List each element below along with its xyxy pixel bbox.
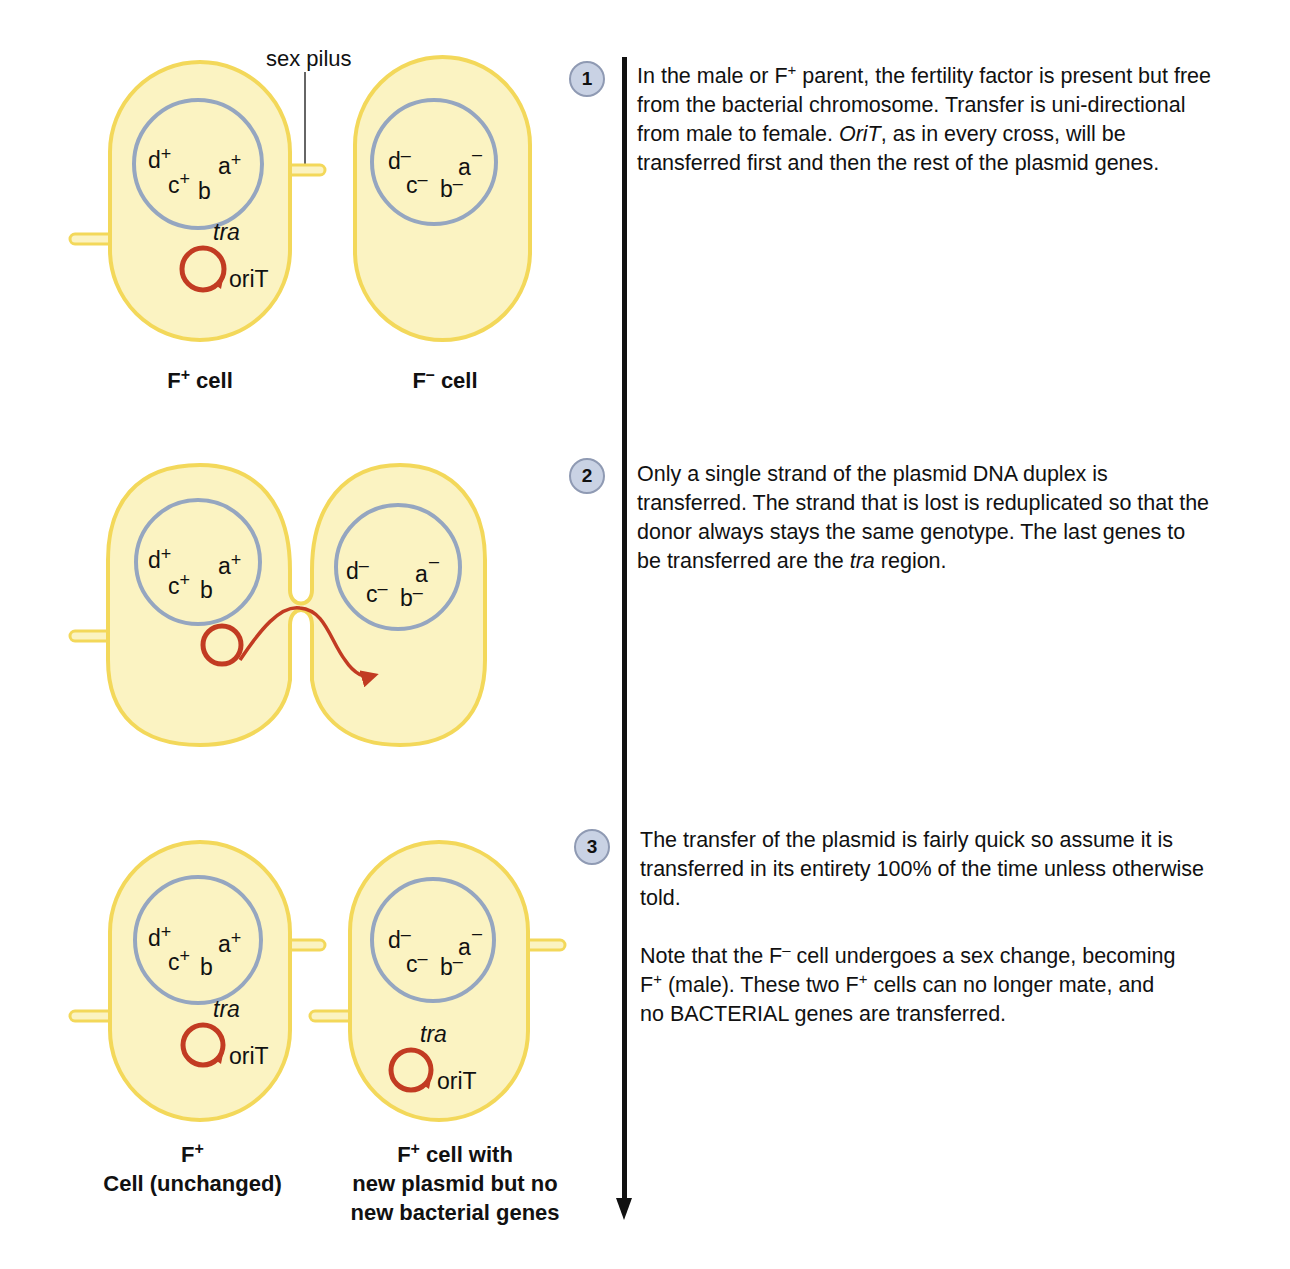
step-2-text: Only a single strand of the plasmid DNA … (637, 460, 1212, 576)
label-line-1: F+ (85, 1134, 300, 1169)
svg-text:–: – (472, 923, 482, 943)
f-plus-cell-label: F+ cell (140, 360, 260, 395)
mating-pair: d+ a+ c+ b d– a – c– b– (70, 465, 485, 745)
f-minus-cell-1: d– a – c– b– (355, 57, 530, 340)
step-1-text: In the male or F+ parent, the fertility … (637, 62, 1227, 178)
label-line-1: F+ cell with (330, 1134, 580, 1169)
step-1-badge: 1 (569, 61, 605, 97)
svg-text:–: – (429, 551, 439, 571)
svg-text:oriT: oriT (229, 266, 269, 292)
svg-text:tra: tra (213, 219, 240, 245)
timeline-arrowhead-icon (616, 1198, 632, 1220)
svg-text:oriT: oriT (229, 1043, 269, 1069)
f-minus-cell-label: F– cell (385, 360, 505, 395)
svg-text:b: b (200, 577, 213, 603)
svg-text:oriT: oriT (437, 1068, 477, 1094)
f-plus-cell-new: d– a – c– b– tra oriT (310, 842, 565, 1120)
label-line-2: Cell (unchanged) (85, 1169, 300, 1198)
f-plus-new-plasmid-label: F+ cell with new plasmid but no new bact… (330, 1134, 580, 1227)
conjugation-diagram: d+ a+ c+ b tra oriT d– a – c– b– d+ a+ c… (0, 0, 1290, 1269)
svg-text:–: – (472, 144, 482, 164)
step-3-paragraph-1: The transfer of the plasmid is fairly qu… (640, 826, 1240, 913)
step-3-text: The transfer of the plasmid is fairly qu… (640, 826, 1240, 1058)
svg-text:b: b (198, 178, 211, 204)
svg-text:tra: tra (420, 1021, 447, 1047)
label-line-2: new plasmid but no (330, 1169, 580, 1198)
step-3-paragraph-2: Note that the F– cell undergoes a sex ch… (640, 942, 1180, 1029)
svg-text:tra: tra (213, 996, 240, 1022)
step-3-badge: 3 (574, 829, 610, 865)
step-2-badge: 2 (569, 458, 605, 494)
svg-text:b: b (200, 954, 213, 980)
timeline-bar (622, 57, 627, 1202)
label-line-3: new bacterial genes (330, 1198, 580, 1227)
f-plus-cell-1: d+ a+ c+ b tra oriT (70, 62, 325, 340)
f-plus-cell-unchanged: d+ a+ c+ b tra oriT (70, 842, 325, 1120)
sex-pilus-label: sex pilus (266, 46, 352, 72)
f-plus-unchanged-label: F+ Cell (unchanged) (85, 1134, 300, 1198)
